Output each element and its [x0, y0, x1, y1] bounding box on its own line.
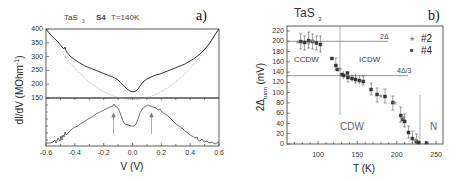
panel-b-ytick-140: 140 — [272, 68, 284, 75]
panel-a-x-ticks — [46, 98, 219, 146]
star-point: ★ — [337, 65, 342, 72]
panel-b-region-ccdw: CCDW — [294, 55, 319, 64]
panel-b-ytick-220: 220 — [272, 27, 284, 34]
panel-b-ytick-100: 100 — [272, 89, 284, 96]
panel-a-ylabel-main: dI/dV (MOhm — [14, 65, 25, 124]
panel-a-xtick-n0.4: -0.4 — [69, 149, 81, 156]
panel-b-legend: ★ #2 #4 — [409, 33, 433, 56]
legend-star-icon: ★ — [409, 35, 415, 43]
star-point: ★ — [392, 99, 397, 106]
panel-a-didv-curve — [46, 29, 219, 92]
panel-a-title-subscript: 3 — [82, 18, 85, 24]
panel-a-background-curve — [46, 29, 219, 100]
legend-label-2: #2 — [421, 33, 433, 44]
panel-b-region-cdw: CDW — [340, 121, 364, 132]
panel-b-label: b) — [428, 8, 440, 24]
panel-a-xtick-0.6: 0.6 — [214, 149, 224, 156]
panel-b-ytick-0: 0 — [280, 140, 284, 147]
star-point: ★ — [295, 38, 300, 45]
figure: TaS 3 S4 T=140K a) 400 350 300 250 200 1… — [0, 0, 459, 181]
panel-b-title-subscript: 3 — [318, 16, 322, 22]
panel-b-ytick-120: 120 — [272, 78, 284, 85]
panel-b-xtick-200: 200 — [391, 151, 403, 158]
star-point: ★ — [401, 114, 406, 121]
svg-text:dI/dV (MOhm-1): dI/dV (MOhm-1) — [13, 55, 25, 124]
panel-a-ytick-300: 300 — [31, 53, 43, 60]
panel-b-ylabel-main: 2Δ — [255, 99, 266, 112]
star-point: ★ — [413, 136, 418, 143]
panel-a-title-material: TaS — [64, 13, 78, 22]
panel-a-title-temp: T=140K — [111, 13, 140, 22]
panel-a-ytick-150: 150 — [31, 94, 43, 101]
panel-a-label: a) — [196, 8, 207, 24]
panel-b-region-icdw: ICDW — [359, 55, 381, 64]
panel-b-annotation-4delta3: 4Δ/3 — [397, 67, 412, 74]
panel-a-xlabel: V (V) — [121, 161, 144, 172]
panel-b-ytick-200: 200 — [272, 37, 284, 44]
panel-b-ytick-60: 60 — [276, 109, 284, 116]
panel-a-xtick-0.4: 0.4 — [185, 149, 195, 156]
panel-a-ytick-350: 350 — [31, 39, 43, 46]
panel-b-ytick-80: 80 — [276, 99, 284, 106]
panel-a-ytick-400: 400 — [31, 25, 43, 32]
panel-b-ytick-40: 40 — [276, 120, 284, 127]
star-point: ★ — [378, 92, 383, 99]
panel-b-xtick-100: 100 — [312, 151, 324, 158]
panel-a-title-sample: S4 — [96, 13, 106, 22]
panel-a-ylabel-close: ) — [14, 55, 25, 58]
panel-a-xtick-0.2: 0.2 — [156, 149, 166, 156]
panel-b: TaS 3 b) 220 200 180 160 140 120 100 80 … — [255, 6, 443, 174]
panel-a-xtick-n0.2: -0.2 — [98, 149, 110, 156]
legend-square-icon — [410, 49, 413, 52]
panel-b-ytick-160: 160 — [272, 58, 284, 65]
legend-label-4: #4 — [421, 45, 433, 56]
panel-a-y-ticks — [46, 29, 49, 140]
panel-a-ytick-200: 200 — [31, 80, 43, 87]
panel-b-y-ticks — [287, 31, 290, 144]
panel-b-ytick-180: 180 — [272, 48, 284, 55]
panel-b-ytick-20: 20 — [276, 130, 284, 137]
panel-b-region-n: N — [430, 121, 437, 132]
panel-a-difference-curve — [46, 104, 219, 144]
panel-b-ylabel: 2Δtunn (mV) — [255, 63, 268, 111]
star-point: ★ — [310, 37, 315, 44]
panel-b-xtick-250: 250 — [430, 151, 442, 158]
svg-text:2Δtunn (mV): 2Δtunn (mV) — [255, 63, 268, 111]
panel-b-title-material: TaS — [294, 6, 315, 20]
panel-a-bottom-frame — [46, 98, 219, 146]
panel-b-xlabel: T (K) — [353, 163, 375, 174]
panel-a-ytick-250: 250 — [31, 66, 43, 73]
panel-a: TaS 3 S4 T=140K a) 400 350 300 250 200 1… — [13, 8, 224, 172]
panel-a-ylabel: dI/dV (MOhm-1) — [13, 55, 25, 124]
panel-a-xtick-0.0: 0.0 — [128, 149, 138, 156]
panel-b-ylabel-unit: (mV) — [255, 63, 266, 87]
panel-a-xtick-n0.6: -0.6 — [40, 149, 52, 156]
panel-b-ylabel-sub: tunn — [262, 87, 268, 99]
panel-b-xtick-150: 150 — [352, 151, 364, 158]
panel-b-annotation-2delta: 2Δ — [380, 33, 389, 40]
panel-a-gap-arrows — [112, 113, 153, 134]
panel-a-top-frame — [46, 29, 219, 98]
